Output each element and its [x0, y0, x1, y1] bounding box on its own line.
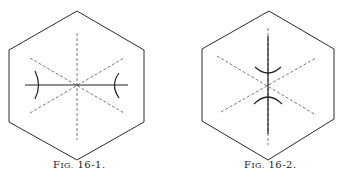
- figure-16-2: [202, 11, 334, 160]
- figure-16-1: [9, 11, 144, 160]
- caption-smallcaps: IG.: [60, 161, 73, 170]
- caption-number: 16-1.: [77, 159, 105, 170]
- caption-fig-16-1: FIG. 16-1.: [53, 159, 106, 170]
- caption-fig-16-2: FIG. 16-2.: [244, 159, 297, 170]
- figure-canvas: [0, 0, 343, 178]
- caption-number: 16-2.: [268, 159, 296, 170]
- caption-smallcaps: IG.: [251, 161, 264, 170]
